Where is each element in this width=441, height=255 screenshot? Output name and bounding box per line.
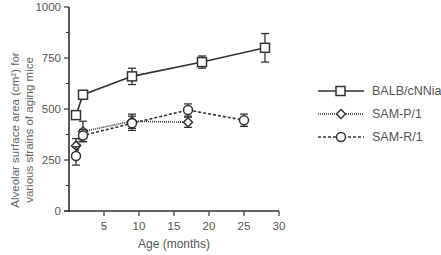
legend-label: SAM-R/1 xyxy=(372,130,423,144)
x-axis-label: Age (months) xyxy=(138,237,210,251)
diamond-marker-icon xyxy=(318,108,364,120)
data-point xyxy=(79,90,88,99)
square-marker-icon xyxy=(318,85,364,97)
data-point xyxy=(72,151,81,160)
y-tick-label: 250 xyxy=(42,154,61,166)
data-point xyxy=(79,131,88,140)
y-axis-label-line2: various strains of aging mice xyxy=(22,52,36,207)
y-tick-label: 1000 xyxy=(35,1,61,13)
series-sam-r-1 xyxy=(72,104,249,165)
data-point xyxy=(128,72,137,81)
y-tick-label: 0 xyxy=(55,205,61,217)
y-tick-label: 750 xyxy=(42,52,61,64)
data-series xyxy=(72,34,270,166)
legend: BALB/cNNia SAM-P/1 SAM-R/1 xyxy=(318,79,441,148)
legend-label: BALB/cNNia xyxy=(372,84,441,98)
legend-item-balb: BALB/cNNia xyxy=(318,79,441,102)
x-tick-label: 30 xyxy=(273,220,286,232)
circle-marker-icon xyxy=(318,131,364,143)
data-point xyxy=(184,118,193,127)
x-tick-label: 25 xyxy=(238,220,251,232)
data-point xyxy=(261,43,270,52)
data-point xyxy=(198,58,207,67)
y-axis-label: Alveolar surface area (cm²) for various … xyxy=(2,40,42,220)
x-tick-label: 20 xyxy=(203,220,216,232)
data-point xyxy=(184,106,193,115)
legend-label: SAM-P/1 xyxy=(372,107,422,121)
data-point xyxy=(240,116,249,125)
x-tick-label: 10 xyxy=(133,220,146,232)
legend-item-sam-r: SAM-R/1 xyxy=(318,125,441,148)
legend-item-sam-p: SAM-P/1 xyxy=(318,102,441,125)
data-point xyxy=(72,111,81,120)
y-axis-label-line1: Alveolar surface area (cm²) for xyxy=(8,52,22,207)
y-tick-label: 500 xyxy=(42,103,61,115)
series-balb-cnnia xyxy=(72,34,270,120)
x-tick-label: 5 xyxy=(101,220,107,232)
data-point xyxy=(128,119,137,128)
x-tick-label: 15 xyxy=(168,220,181,232)
